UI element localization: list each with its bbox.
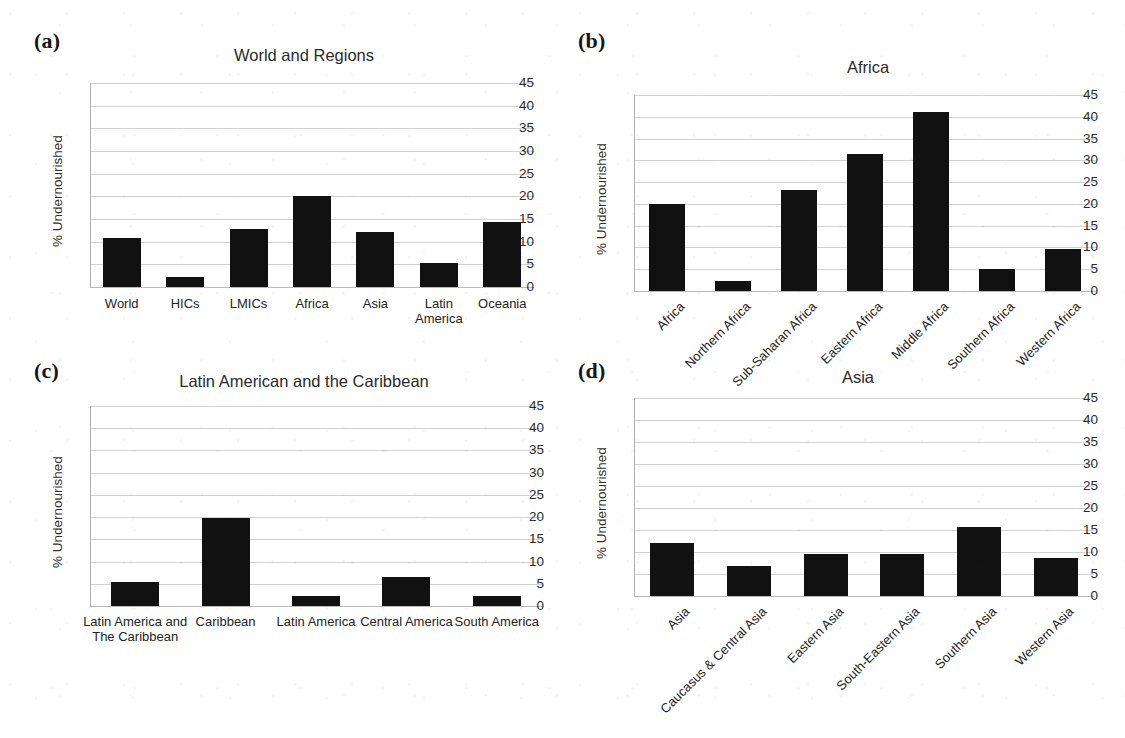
x-axis-category-label: South-Eastern Asia (796, 604, 924, 732)
y-axis-tick-label: 35 (486, 122, 534, 136)
y-axis-tick-label: 10 (496, 555, 544, 569)
y-axis-tick-label: 10 (1050, 545, 1098, 559)
y-axis-line (90, 406, 91, 607)
y-axis-tick-label: 35 (1050, 435, 1098, 449)
y-axis-tick-label: 45 (1050, 88, 1098, 102)
bar (1034, 558, 1078, 596)
panel-d-plot: % Undernourished051015202530354045AsiaCa… (578, 398, 1098, 626)
bar (420, 263, 458, 287)
gridline (90, 151, 534, 152)
gridline (634, 139, 1096, 140)
gridline (90, 473, 542, 474)
y-axis-tick-label: 25 (486, 167, 534, 181)
bar (804, 554, 848, 596)
gridline (634, 486, 1094, 487)
y-axis-label: % Undernourished (594, 447, 609, 559)
gridline (90, 174, 534, 175)
bar (293, 196, 331, 287)
bar (202, 518, 250, 606)
bar (727, 566, 771, 596)
gridline (634, 530, 1094, 531)
bar (292, 596, 340, 606)
gridline (90, 539, 542, 540)
y-axis-tick-label: 40 (1050, 110, 1098, 124)
gridline (90, 406, 542, 407)
bar (913, 112, 949, 291)
gridline (90, 128, 534, 129)
y-axis-tick-label: 20 (1050, 501, 1098, 515)
gridline (90, 517, 542, 518)
bar (715, 281, 751, 291)
bar (650, 543, 694, 596)
undernourishment-figure: (a) World and Regions % Undernourished05… (0, 0, 1125, 738)
y-axis-tick-label: 15 (1050, 219, 1098, 233)
y-axis-tick-label: 15 (1050, 523, 1098, 537)
panel-a-plot: % Undernourished051015202530354045WorldH… (34, 83, 534, 351)
panel-c: (c) Latin American and the Caribbean % U… (34, 358, 554, 688)
bar (649, 204, 685, 291)
panel-b-plot: % Undernourished051015202530354045Africa… (578, 95, 1098, 355)
bar (1045, 249, 1081, 291)
panel-c-tag: (c) (34, 358, 59, 384)
gridline (90, 450, 542, 451)
y-axis-tick-label: 40 (496, 421, 544, 435)
x-axis-category-label: Oceania (463, 296, 541, 311)
y-axis-tick-label: 45 (1050, 391, 1098, 405)
y-axis-tick-label: 35 (496, 444, 544, 458)
gridline (90, 106, 534, 107)
bar (880, 554, 924, 596)
y-axis-label: % Undernourished (50, 135, 65, 247)
y-axis-line (634, 398, 635, 597)
x-axis-line (90, 287, 534, 288)
y-axis-tick-label: 45 (496, 399, 544, 413)
y-axis-label: % Undernourished (50, 456, 65, 568)
gridline (90, 428, 542, 429)
y-axis-tick-label: 5 (496, 577, 544, 591)
gridline (634, 117, 1096, 118)
panel-b-tag: (b) (578, 28, 606, 54)
gridline (634, 95, 1096, 96)
x-axis-category-label: South America (438, 614, 556, 629)
gridline (634, 398, 1094, 399)
panel-c-plot: % Undernourished051015202530354045Latin … (34, 406, 544, 616)
bar (230, 229, 268, 287)
y-axis-line (634, 95, 635, 292)
gridline (90, 495, 542, 496)
y-axis-tick-label: 30 (1050, 154, 1098, 168)
panel-a-title: World and Regions (124, 46, 484, 65)
panel-d-tag: (d) (578, 358, 606, 384)
y-axis-label: % Undernourished (594, 143, 609, 255)
panel-d: (d) Asia % Undernourished051015202530354… (578, 358, 1118, 688)
y-axis-tick-label: 30 (486, 144, 534, 158)
y-axis-tick-label: 35 (1050, 132, 1098, 146)
panel-a-tag: (a) (34, 28, 60, 54)
y-axis-tick-label: 20 (1050, 197, 1098, 211)
x-axis-line (90, 606, 542, 607)
bar (847, 154, 883, 291)
y-axis-tick-label: 25 (1050, 175, 1098, 189)
gridline (634, 464, 1094, 465)
bar (103, 238, 141, 287)
y-axis-tick-label: 30 (496, 466, 544, 480)
bar (356, 232, 394, 287)
bar (473, 596, 521, 606)
bar (781, 190, 817, 291)
gridline (634, 552, 1094, 553)
bar (483, 222, 521, 287)
panel-d-title: Asia (678, 368, 1038, 387)
x-axis-line (634, 596, 1094, 597)
gridline (634, 574, 1094, 575)
gridline (90, 83, 534, 84)
panel-b-title: Africa (688, 58, 1048, 77)
x-axis-category-label: Asia (566, 604, 694, 732)
gridline (634, 442, 1094, 443)
y-axis-tick-label: 30 (1050, 457, 1098, 471)
gridline (90, 562, 542, 563)
bar (957, 527, 1001, 596)
gridline (634, 420, 1094, 421)
panel-b: (b) Africa % Undernourished0510152025303… (578, 28, 1118, 358)
gridline (634, 508, 1094, 509)
y-axis-tick-label: 15 (496, 533, 544, 547)
panel-c-title: Latin American and the Caribbean (94, 372, 514, 391)
y-axis-tick-label: 45 (486, 76, 534, 90)
